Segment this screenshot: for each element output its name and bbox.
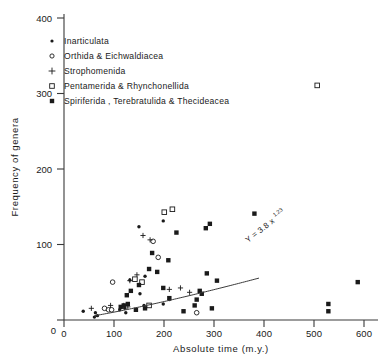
legend-label-inarticulata: Inarticulata (64, 36, 109, 46)
data-point (155, 270, 159, 274)
legend-marker-open-square (50, 84, 55, 89)
data-point (109, 308, 114, 313)
series-2 (89, 233, 192, 311)
x-tick-label-200: 200 (156, 328, 172, 339)
x-tick-label-500: 500 (306, 328, 322, 339)
data-point (124, 311, 127, 314)
data-point (187, 290, 192, 295)
data-point (205, 271, 209, 275)
legend-item-inarticulata[interactable]: Inarticulata (50, 36, 109, 46)
x-tick-label-100: 100 (106, 328, 122, 339)
data-point (210, 306, 214, 310)
legend-item-pentamerida[interactable]: Pentamerida & Rhynchonellida (50, 81, 189, 91)
series-4 (119, 211, 360, 313)
legend-label-orthida: Orthida & Eichwaldiacea (64, 51, 163, 61)
data-point (174, 230, 178, 234)
data-point (326, 302, 330, 306)
data-point (166, 258, 170, 262)
data-point (194, 297, 198, 301)
legend-marker-plus (49, 68, 56, 75)
legend-item-strophomenida[interactable]: Strophomenida (49, 66, 126, 76)
data-point (162, 210, 167, 215)
legend-label-pentamerida: Pentamerida & Rhynchonellida (64, 81, 189, 91)
data-point (127, 278, 132, 283)
legend-marker-open-circle (50, 54, 54, 58)
x-axis: 0 100 200 300 400 500 600 Absolute time … (61, 320, 378, 354)
data-point (170, 207, 175, 212)
y-tick-label-200: 200 (36, 164, 52, 175)
legend-marker-dot (50, 39, 53, 42)
data-points-layer (82, 83, 360, 319)
legend-label-strophomenida: Strophomenida (64, 66, 126, 76)
data-point (252, 211, 256, 215)
data-point (326, 309, 330, 313)
data-point (215, 278, 219, 282)
data-point (122, 303, 126, 307)
data-point (167, 287, 172, 292)
x-tick-marks (64, 320, 364, 327)
data-point (143, 275, 146, 278)
x-tick-label-600: 600 (356, 328, 372, 339)
y-axis: 400 300 200 100 0 Frequency of genera (9, 13, 64, 337)
data-point (137, 283, 141, 287)
data-point (110, 280, 115, 285)
data-point (204, 226, 208, 230)
y-tick-label-400: 400 (36, 13, 52, 24)
data-point (194, 310, 199, 315)
data-point (133, 277, 138, 282)
y-tick-label-100: 100 (36, 239, 52, 250)
y-axis-title: Frequency of genera (9, 117, 20, 216)
data-point (82, 310, 85, 313)
data-point (208, 222, 212, 226)
legend-item-orthida[interactable]: Orthida & Eichwaldiacea (50, 51, 163, 61)
data-point (143, 306, 147, 310)
data-point (156, 255, 161, 260)
y-tick-marks (57, 18, 64, 320)
data-point (161, 286, 165, 290)
legend-item-spiriferida[interactable]: Spiriferida , Terebratulida & Thecideace… (50, 96, 229, 106)
regression-equation-base: Y = 3.8 x (244, 216, 277, 244)
data-point (356, 280, 360, 284)
y-tick-label-300: 300 (36, 88, 52, 99)
data-point (147, 267, 151, 271)
x-tick-label-300: 300 (206, 328, 222, 339)
data-point (192, 303, 196, 307)
legend-marker-filled-square (50, 99, 54, 103)
x-tick-label-400: 400 (256, 328, 272, 339)
data-point (125, 293, 129, 297)
regression-equation-annotation: Y = 3.8 x 1.23 (242, 206, 287, 244)
data-point (140, 233, 145, 238)
data-point (94, 311, 97, 314)
data-point (89, 306, 94, 311)
series-3 (133, 83, 320, 308)
plot-canvas: 400 300 200 100 0 Frequency of genera 0 … (0, 0, 386, 359)
y-tick-label-0: 0 (51, 325, 56, 336)
legend: Inarticulata Orthida & Eichwaldiacea Str… (49, 36, 230, 106)
legend-label-spiriferida: Spiriferida , Terebratulida & Thecideace… (64, 96, 229, 106)
x-tick-label-0: 0 (61, 328, 66, 339)
data-point (315, 83, 320, 88)
data-point (162, 219, 165, 222)
data-point (181, 309, 185, 313)
data-point (162, 302, 165, 305)
data-point (126, 302, 130, 306)
scatter-plot-figure: 400 300 200 100 0 Frequency of genera 0 … (0, 0, 386, 359)
regression-equation-exponent: 1.23 (272, 206, 284, 217)
data-point (129, 289, 133, 293)
data-point (138, 292, 141, 295)
data-point (150, 251, 154, 255)
data-point (137, 225, 140, 228)
x-axis-title: Absolute time (m.y.) (173, 343, 269, 354)
data-point (178, 285, 183, 290)
